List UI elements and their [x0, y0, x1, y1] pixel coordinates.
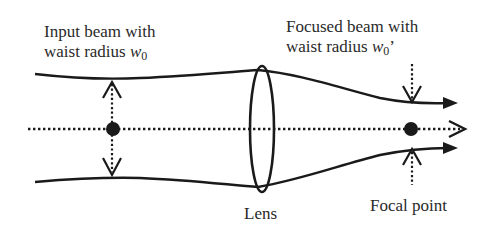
- focused-waist-symbol: w: [372, 37, 383, 56]
- focused-label-prefix: waist radius: [286, 37, 372, 56]
- input-label-line1: Input beam with: [44, 22, 155, 42]
- input-waist-marker: [103, 82, 121, 175]
- beam-focusing-diagram: Input beam with waist radius w0 Focused …: [0, 0, 490, 235]
- focused-beam-label: Focused beam with waist radius w0’: [286, 17, 418, 61]
- top-beam-arrowhead-icon: [443, 97, 458, 109]
- input-waist-dot: [106, 122, 120, 136]
- input-waist-subscript: 0: [141, 49, 147, 63]
- focused-label-line2: waist radius w0’: [286, 37, 418, 61]
- input-waist-symbol: w: [130, 42, 141, 61]
- input-label-line2: waist radius w0: [44, 42, 155, 66]
- lens-label: Lens: [244, 204, 277, 224]
- focal-point-marker: [403, 64, 421, 185]
- input-label-prefix: waist radius: [44, 42, 130, 61]
- focal-point-dot: [404, 122, 418, 136]
- focused-waist-prime: ’: [389, 37, 395, 56]
- down-arrow-icon: [103, 158, 121, 175]
- focused-label-line1: Focused beam with: [286, 17, 418, 37]
- bottom-beam-arrowhead-icon: [443, 142, 458, 154]
- top-beam-edge: [35, 70, 448, 103]
- focal-point-label: Focal point: [370, 196, 447, 216]
- input-beam-label: Input beam with waist radius w0: [44, 22, 155, 66]
- bottom-beam-edge: [35, 148, 448, 187]
- open-arrowhead-icon: [449, 121, 465, 137]
- optical-axis: [28, 121, 465, 137]
